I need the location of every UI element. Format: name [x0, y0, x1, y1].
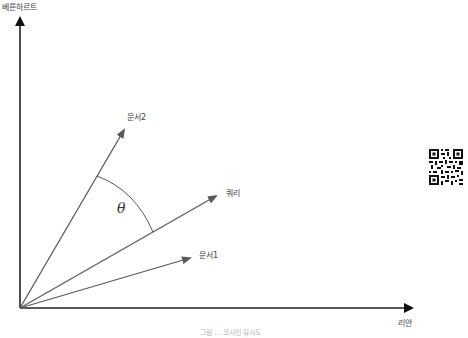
- vector-label-doc1: 문서1: [199, 252, 218, 260]
- vector-doc2: [20, 130, 124, 308]
- y-axis-label: 베른하르트: [2, 4, 37, 12]
- vector-label-query: 쿼리: [226, 190, 240, 198]
- x-axis-label: 리안: [398, 320, 412, 328]
- vector-label-doc2: 문서2: [127, 114, 146, 122]
- cosine-similarity-diagram: 베른하르트 리안 문서2 쿼리 문서1 θ 그림 ... 코사인 유사도: [0, 0, 468, 338]
- figure-caption: 그림 ... 코사인 유사도: [200, 330, 261, 337]
- diagram-canvas: [0, 0, 468, 338]
- qr-code-icon: [428, 148, 464, 186]
- angle-theta-symbol: θ: [117, 201, 125, 215]
